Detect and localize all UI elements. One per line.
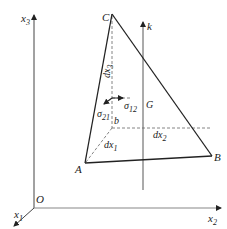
sigma21-label: σ21 bbox=[97, 108, 110, 122]
normal-k-label: k bbox=[147, 20, 153, 32]
dx1-label: dx1 bbox=[104, 139, 117, 153]
point-G-label: G bbox=[146, 99, 153, 110]
stress-tetrahedron-diagram: x3 x2 x1 O C A B b G k dx3 dx1 dx2 σ12 σ… bbox=[0, 0, 227, 229]
dx2-label: dx2 bbox=[153, 129, 166, 143]
point-C-label: C bbox=[102, 11, 110, 23]
edge-A-B bbox=[85, 156, 212, 163]
x2-axis-label: x2 bbox=[207, 212, 217, 227]
point-b-label: b bbox=[114, 115, 119, 126]
point-A-label: A bbox=[74, 163, 82, 175]
origin-label: O bbox=[36, 193, 44, 205]
x1-axis-label: x1 bbox=[13, 208, 23, 223]
sigma12-label: σ12 bbox=[124, 100, 137, 114]
sigma21-arrow bbox=[104, 98, 112, 104]
x3-axis-label: x3 bbox=[20, 12, 30, 27]
point-B-label: B bbox=[214, 151, 221, 163]
